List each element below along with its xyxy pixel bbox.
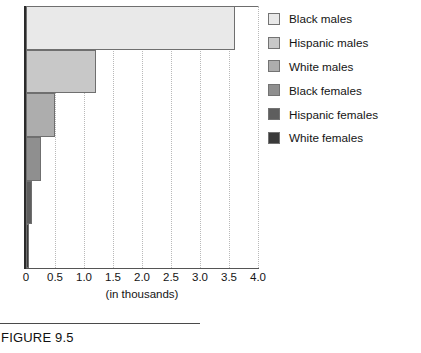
x-tick-label: 0 bbox=[23, 271, 29, 283]
bar-chart: 00.51.01.52.02.53.03.54.0 (in thousands) bbox=[0, 0, 265, 300]
legend-item: Hispanic females bbox=[268, 102, 418, 126]
bar bbox=[26, 50, 96, 94]
x-axis-tick-labels: 00.51.01.52.02.53.03.54.0 bbox=[0, 271, 265, 287]
bar bbox=[26, 6, 235, 50]
bar bbox=[26, 137, 41, 181]
legend-item: Black females bbox=[268, 78, 418, 102]
x-axis-title: (in thousands) bbox=[26, 288, 258, 300]
y-axis-line bbox=[24, 6, 26, 269]
legend-swatch-icon bbox=[268, 108, 280, 120]
x-tick-label: 4.0 bbox=[250, 271, 266, 283]
legend-item-label: Hispanic females bbox=[289, 108, 378, 121]
bar bbox=[26, 224, 29, 268]
x-tick-label: 1.0 bbox=[76, 271, 92, 283]
bar bbox=[26, 181, 32, 225]
legend-item: White females bbox=[268, 126, 418, 150]
legend-item-label: White males bbox=[289, 60, 353, 73]
x-tick-label: 0.5 bbox=[47, 271, 63, 283]
caption-divider bbox=[0, 323, 200, 324]
legend-item: Black males bbox=[268, 7, 418, 31]
chart-legend: Black malesHispanic malesWhite malesBlac… bbox=[268, 7, 418, 150]
legend-swatch-icon bbox=[268, 132, 280, 144]
bar-series bbox=[26, 6, 258, 268]
figure-caption: FIGURE 9.5 bbox=[1, 330, 74, 345]
legend-item-label: Hispanic males bbox=[289, 36, 368, 49]
legend-item-label: Black males bbox=[289, 12, 352, 25]
legend-swatch-icon bbox=[268, 37, 280, 49]
legend-item-label: Black females bbox=[289, 84, 362, 97]
bar bbox=[26, 93, 55, 137]
figure-9-5: 00.51.01.52.02.53.03.54.0 (in thousands)… bbox=[0, 0, 421, 353]
legend-swatch-icon bbox=[268, 84, 280, 96]
x-tick-label: 3.0 bbox=[192, 271, 208, 283]
x-tick-label: 3.5 bbox=[221, 271, 237, 283]
legend-swatch-icon bbox=[268, 60, 280, 72]
legend-item: Hispanic males bbox=[268, 31, 418, 55]
x-tick-label: 2.0 bbox=[134, 271, 150, 283]
legend-swatch-icon bbox=[268, 13, 280, 25]
plot-area bbox=[26, 6, 258, 268]
gridline bbox=[258, 6, 259, 268]
legend-item-label: White females bbox=[289, 131, 363, 144]
x-tick-label: 2.5 bbox=[163, 271, 179, 283]
x-axis-line bbox=[26, 268, 259, 269]
legend-item: White males bbox=[268, 55, 418, 79]
x-tick-label: 1.5 bbox=[105, 271, 121, 283]
